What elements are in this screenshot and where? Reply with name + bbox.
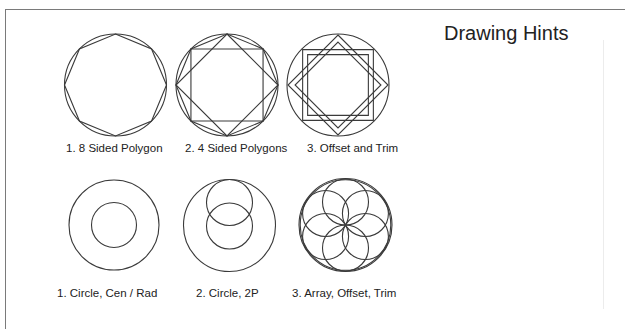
label-4-sided-polygons: 2. 4 Sided Polygons xyxy=(185,142,287,154)
figure-4-sided-polygons xyxy=(176,34,278,136)
label-offset-and-trim: 3. Offset and Trim xyxy=(307,142,398,154)
label-circle-cen-rad: 1. Circle, Cen / Rad xyxy=(57,287,157,299)
figure-circle-cen-rad xyxy=(69,180,159,270)
figure-offset-and-trim xyxy=(287,34,389,136)
figure-8-sided-polygon xyxy=(65,34,167,136)
label-circle-2p: 2. Circle, 2P xyxy=(196,287,259,299)
label-8-sided-polygon: 1. 8 Sided Polygon xyxy=(66,142,163,154)
figure-circle-2p xyxy=(184,180,276,272)
label-array-offset-trim: 3. Array, Offset, Trim xyxy=(292,287,396,299)
figure-array-offset-trim xyxy=(299,179,392,272)
